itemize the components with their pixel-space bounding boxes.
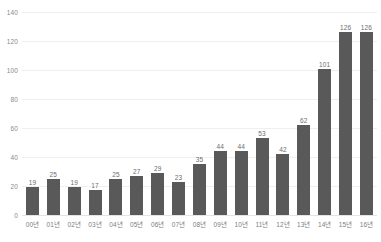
bar-cell: 27 [126,12,147,215]
bar: 101 [318,69,331,215]
bar: 19 [26,187,39,215]
x-axis: 00년01년02년03년04년05년06년07년08년09년10년11년12년1… [22,217,377,231]
bar-cell: 126 [335,12,356,215]
bar-value-label: 53 [258,130,265,137]
bar-cell: 35 [189,12,210,215]
x-axis-tick-label: 05년 [126,217,147,231]
bar-value-label: 101 [319,61,330,68]
bar-series: 1925191725272923354444534262101126126 [22,12,377,215]
x-axis-tick-label: 09년 [210,217,231,231]
bar: 29 [151,173,164,215]
bar-value-label: 44 [237,143,244,150]
bar-value-label: 25 [50,171,57,178]
bar-cell: 44 [231,12,252,215]
x-axis-tick-label: 13년 [293,217,314,231]
bar: 44 [214,151,227,215]
bar: 62 [297,125,310,215]
x-axis-tick-label: 08년 [189,217,210,231]
bar-cell: 101 [314,12,335,215]
bar-cell: 53 [252,12,273,215]
bar-value-label: 44 [217,143,224,150]
bar-cell: 23 [168,12,189,215]
x-axis-tick-label: 10년 [231,217,252,231]
x-axis-tick-label: 12년 [273,217,294,231]
bar-value-label: 62 [300,117,307,124]
bar: 126 [360,32,373,215]
bar-value-label: 126 [340,24,351,31]
bar: 25 [109,179,122,215]
x-axis-tick-label: 14년 [314,217,335,231]
y-axis-tick-label: 120 [7,38,18,45]
bar-cell: 25 [106,12,127,215]
bar-value-label: 17 [91,182,98,189]
x-axis-tick-label: 03년 [85,217,106,231]
bar: 27 [130,176,143,215]
bar-value-label: 19 [70,179,77,186]
x-axis-tick-label: 02년 [64,217,85,231]
bar-value-label: 29 [154,165,161,172]
bar: 42 [276,154,289,215]
y-axis-tick-label: 40 [11,154,18,161]
x-axis-tick-label: 01년 [43,217,64,231]
x-axis-tick-label: 00년 [22,217,43,231]
bar-value-label: 25 [112,171,119,178]
bar-cell: 19 [64,12,85,215]
bar: 25 [47,179,60,215]
x-axis-tick-label: 16년 [356,217,377,231]
y-axis-tick-label: 0 [14,212,18,219]
bar-value-label: 27 [133,168,140,175]
y-axis-tick-label: 80 [11,96,18,103]
bar-value-label: 42 [279,146,286,153]
x-axis-tick-label: 04년 [106,217,127,231]
bar: 35 [193,164,206,215]
x-axis-tick-label: 07년 [168,217,189,231]
bar: 23 [172,182,185,215]
bar-cell: 44 [210,12,231,215]
bar-cell: 17 [85,12,106,215]
bar-value-label: 126 [361,24,372,31]
x-axis-tick-label: 15년 [335,217,356,231]
y-axis-tick-label: 140 [7,9,18,16]
bar: 53 [256,138,269,215]
bar-cell: 62 [293,12,314,215]
x-axis-tick-label: 06년 [147,217,168,231]
bar: 44 [235,151,248,215]
bar-cell: 25 [43,12,64,215]
bar-cell: 29 [147,12,168,215]
bar-cell: 19 [22,12,43,215]
gridline [22,215,377,216]
bar: 19 [68,187,81,215]
bar-value-label: 23 [175,174,182,181]
bar: 126 [339,32,352,215]
y-axis-tick-label: 20 [11,183,18,190]
bar-value-label: 19 [29,179,36,186]
y-axis: 020406080100120140 [0,12,20,215]
bar-cell: 126 [356,12,377,215]
x-axis-tick-label: 11년 [252,217,273,231]
y-axis-tick-label: 60 [11,125,18,132]
y-axis-tick-label: 100 [7,67,18,74]
bar-value-label: 35 [196,156,203,163]
bar-cell: 42 [273,12,294,215]
bar-chart: 020406080100120140 192519172527292335444… [0,0,381,242]
bar: 17 [89,190,102,215]
